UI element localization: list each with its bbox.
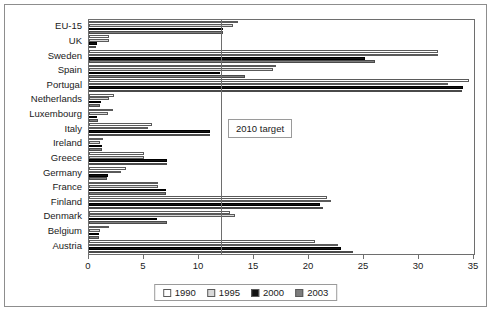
bar-2000 <box>89 233 99 236</box>
bar-1990 <box>89 182 158 185</box>
bar-group <box>89 210 474 225</box>
bar-group <box>89 49 474 64</box>
y-axis-label-luxembourg: Luxembourg <box>29 109 82 119</box>
bar-2003 <box>89 119 98 122</box>
x-axis-tick <box>143 255 144 259</box>
bar-group <box>89 239 474 254</box>
bar-1995 <box>89 39 109 42</box>
bar-1995 <box>89 171 121 174</box>
bar-1995 <box>89 185 158 188</box>
bar-1995 <box>89 24 233 27</box>
bar-2003 <box>89 192 166 195</box>
bar-2003 <box>89 148 102 151</box>
x-axis-tick-label: 15 <box>248 260 259 271</box>
y-axis-label-spain: Spain <box>58 65 82 75</box>
y-axis-label-eu-15: EU-15 <box>55 21 82 31</box>
y-axis-label-uk: UK <box>69 36 82 46</box>
bar-1995 <box>89 214 235 217</box>
bar-2000 <box>89 145 102 148</box>
bar-1990 <box>89 138 103 141</box>
bar-2000 <box>89 247 341 250</box>
bar-2000 <box>89 203 320 206</box>
bar-2003 <box>89 90 462 93</box>
bar-2000 <box>89 28 223 31</box>
y-axis-label-sweden: Sweden <box>48 51 82 61</box>
bar-2000 <box>89 42 97 45</box>
x-axis-tick <box>198 255 199 259</box>
legend-label-1995: 1995 <box>219 287 240 298</box>
bar-2003 <box>89 177 107 180</box>
x-axis-tick-label: 25 <box>358 260 369 271</box>
bar-2000 <box>89 159 167 162</box>
bar-1990 <box>89 35 109 38</box>
bar-1990 <box>89 94 114 97</box>
legend-label-2000: 2000 <box>263 287 284 298</box>
bar-1995 <box>89 200 331 203</box>
x-axis-tick-label: 20 <box>303 260 314 271</box>
bar-1990 <box>89 50 438 53</box>
x-axis-tick-label: 5 <box>140 260 145 271</box>
bar-2003 <box>89 221 167 224</box>
bar-1990 <box>89 226 109 229</box>
bar-1995 <box>89 127 148 130</box>
bar-2003 <box>89 31 223 34</box>
bar-1995 <box>89 97 109 100</box>
x-axis-tick <box>88 255 89 259</box>
y-axis-label-belgium: Belgium <box>48 226 82 236</box>
x-axis-tick <box>418 255 419 259</box>
legend-item-2000: 2000 <box>251 287 284 298</box>
chart-screenshot: EU-15UKSwedenSpainPortugalNetherlandsLux… <box>0 0 493 313</box>
y-axis-label-portugal: Portugal <box>47 80 82 90</box>
legend-swatch-2000 <box>251 289 259 297</box>
bar-1995 <box>89 54 438 57</box>
bar-group <box>89 20 474 35</box>
bar-group <box>89 166 474 181</box>
bar-2000 <box>89 174 108 177</box>
x-axis-tick <box>473 255 474 259</box>
bar-1995 <box>89 83 448 86</box>
legend-item-2003: 2003 <box>295 287 328 298</box>
bar-group <box>89 181 474 196</box>
y-axis-label-greece: Greece <box>51 153 82 163</box>
legend-swatch-2003 <box>295 289 303 297</box>
bar-1990 <box>89 152 144 155</box>
y-axis-label-ireland: Ireland <box>53 138 82 148</box>
bar-2000 <box>89 189 166 192</box>
bar-1990 <box>89 123 152 126</box>
bar-2003 <box>89 46 96 49</box>
bar-2003 <box>89 163 167 166</box>
bar-2000 <box>89 72 220 75</box>
legend-label-2003: 2003 <box>307 287 328 298</box>
y-axis-label-germany: Germany <box>43 168 82 178</box>
bar-1990 <box>89 196 327 199</box>
bar-1990 <box>89 167 126 170</box>
bar-group <box>89 137 474 152</box>
bar-2000 <box>89 116 97 119</box>
bar-1990 <box>89 65 276 68</box>
bar-group <box>89 79 474 94</box>
bar-group <box>89 64 474 79</box>
chart-legend: 1990 1995 2000 2003 <box>154 284 338 301</box>
bar-1995 <box>89 244 338 247</box>
x-axis-tick <box>363 255 364 259</box>
bar-1995 <box>89 68 273 71</box>
y-axis-label-austria: Austria <box>52 241 82 251</box>
target-annotation-label: 2010 target <box>228 119 292 138</box>
bar-1995 <box>89 229 100 232</box>
bar-1990 <box>89 79 469 82</box>
bar-group <box>89 152 474 167</box>
bar-2000 <box>89 57 365 60</box>
bar-1995 <box>89 156 144 159</box>
x-axis-tick <box>253 255 254 259</box>
y-axis-label-finland: Finland <box>51 197 82 207</box>
bar-2003 <box>89 134 210 137</box>
bar-1995 <box>89 141 100 144</box>
legend-label-1990: 1990 <box>175 287 196 298</box>
bar-1990 <box>89 109 113 112</box>
x-axis-tick-label: 35 <box>468 260 479 271</box>
y-axis-label-denmark: Denmark <box>43 211 82 221</box>
bar-1990 <box>89 211 230 214</box>
target-reference-line <box>221 20 222 254</box>
y-axis-label-france: France <box>52 182 82 192</box>
y-axis-label-netherlands: Netherlands <box>31 94 82 104</box>
